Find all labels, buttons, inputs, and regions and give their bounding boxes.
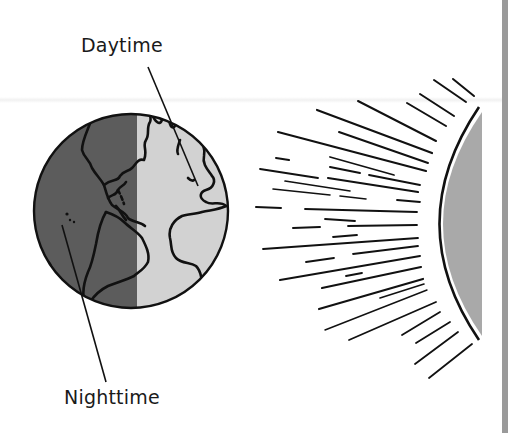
right-edge-bar: [502, 0, 508, 433]
earth-globe: [30, 100, 228, 320]
nighttime-label: Nighttime: [64, 388, 160, 407]
sun: [440, 107, 483, 340]
daytime-label: Daytime: [81, 36, 163, 55]
sun-rays: [256, 79, 474, 378]
sun-body: [443, 112, 482, 336]
day-night-diagram: [0, 0, 508, 433]
